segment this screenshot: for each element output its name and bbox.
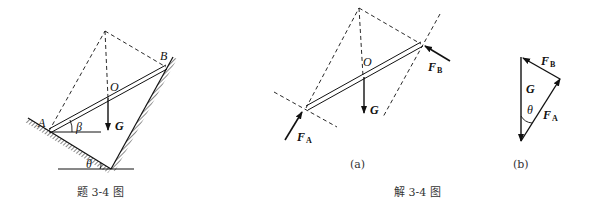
label-theta: θ: [527, 103, 533, 117]
label-FB: FB: [427, 60, 443, 75]
label-G: G: [115, 119, 124, 133]
caption-b: (b): [513, 158, 529, 171]
caption-problem: 题 3-4 图: [77, 186, 124, 199]
figure-solution-a: O G FA FB (a): [274, 8, 450, 171]
theta-arc: [521, 116, 532, 123]
diagram-canvas: A B O G β θ 题 3-4 图 O G FA FB (a: [0, 0, 589, 207]
label-beta: β: [75, 120, 82, 134]
caption-solution: 解 3-4 图: [394, 185, 441, 199]
label-G: G: [370, 103, 379, 117]
label-O: O: [110, 80, 119, 94]
inclined-wall-right: [111, 57, 177, 171]
figure-solution-b: G θ FA FB (b): [513, 54, 560, 171]
dashed-construction-lines: [274, 8, 440, 127]
label-theta: θ: [86, 157, 92, 171]
label-FB: FB: [540, 54, 556, 69]
label-FA: FA: [296, 130, 312, 145]
label-O: O: [363, 55, 372, 69]
force-arrow-FB: [425, 46, 450, 61]
label-FA: FA: [542, 108, 558, 123]
label-G: G: [526, 82, 535, 96]
label-A: A: [37, 116, 46, 130]
figure-problem: A B O G β θ 题 3-4 图: [25, 31, 177, 199]
beta-arc: [70, 120, 72, 132]
label-B: B: [160, 49, 168, 63]
caption-a: (a): [350, 158, 365, 171]
